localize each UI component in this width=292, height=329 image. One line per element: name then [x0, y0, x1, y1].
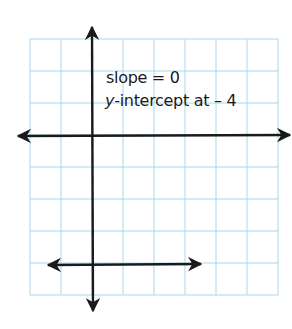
y-axis	[92, 27, 93, 311]
slope-text: slope = 0	[106, 68, 180, 87]
slope-annotation: slope = 0	[106, 68, 180, 87]
y-variable: y	[105, 91, 114, 110]
coordinate-grid	[0, 0, 292, 329]
intercept-annotation: y-intercept at – 4	[105, 91, 236, 110]
intercept-text: -intercept at – 4	[114, 91, 236, 110]
x-axis	[18, 135, 290, 136]
horizontal-line-y-neg4	[48, 264, 201, 265]
